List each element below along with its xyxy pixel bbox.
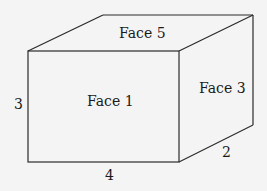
bottom-right-edge (179, 125, 253, 162)
face-5-label: Face 5 (119, 25, 166, 41)
face-1-label: Face 1 (87, 93, 134, 109)
depth-label: 2 (222, 144, 231, 160)
prism-diagram: Face 5 Face 1 Face 3 3 4 2 (0, 0, 267, 191)
face-3-label: Face 3 (199, 80, 246, 96)
length-label: 4 (105, 167, 114, 183)
top-right-edge (179, 15, 253, 51)
height-label: 3 (14, 96, 23, 112)
top-left-edge (28, 15, 103, 51)
